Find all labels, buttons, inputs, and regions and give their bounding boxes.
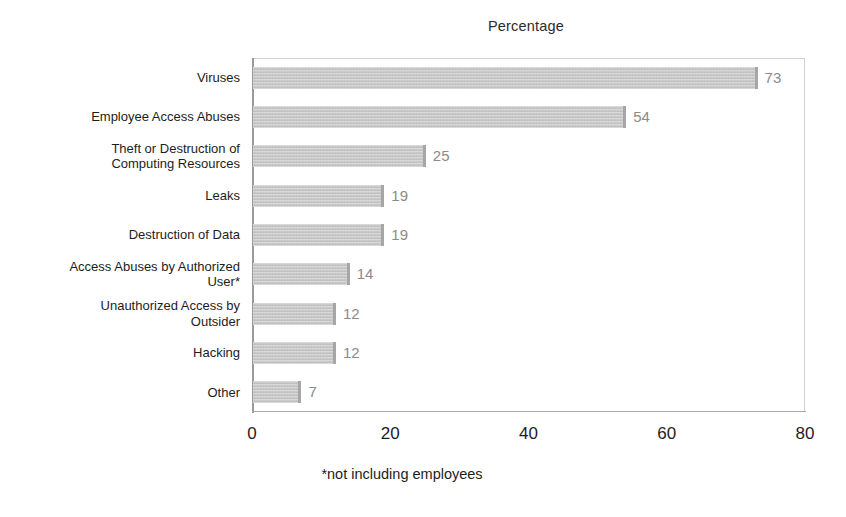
category-label: Viruses xyxy=(0,70,240,86)
bar-row: Employee Access Abuses54 xyxy=(0,97,846,136)
bar xyxy=(253,67,758,89)
bar-chart-figure: Percentage Viruses73Employee Access Abus… xyxy=(0,0,846,517)
chart-footnote: *not including employees xyxy=(252,466,552,482)
bar-row: Other7 xyxy=(0,373,846,412)
bar xyxy=(253,224,384,246)
bar-row: Hacking12 xyxy=(0,333,846,372)
category-label: Theft or Destruction of Computing Resour… xyxy=(0,141,240,172)
bar xyxy=(253,145,426,167)
bar-value-label: 19 xyxy=(391,187,408,204)
x-tick-label: 20 xyxy=(360,424,420,444)
bar xyxy=(253,106,626,128)
bar-row: Destruction of Data19 xyxy=(0,215,846,254)
category-label: Access Abuses by Authorized User* xyxy=(0,259,240,290)
bar-row: Access Abuses by Authorized User*14 xyxy=(0,255,846,294)
bar-value-label: 7 xyxy=(308,383,316,400)
bar-value-label: 12 xyxy=(343,344,360,361)
x-tick-label: 40 xyxy=(499,424,559,444)
bar xyxy=(253,303,336,325)
bar-value-label: 25 xyxy=(433,147,450,164)
bar-value-label: 12 xyxy=(343,305,360,322)
bar-row: Leaks19 xyxy=(0,176,846,215)
chart-title-text: Percentage xyxy=(488,18,564,34)
bar-value-label: 14 xyxy=(357,265,374,282)
bar-row: Unauthorized Access by Outsider12 xyxy=(0,294,846,333)
bar xyxy=(253,263,350,285)
bar xyxy=(253,342,336,364)
x-tick-label: 80 xyxy=(775,424,835,444)
category-label: Leaks xyxy=(0,188,240,204)
bar-row: Viruses73 xyxy=(0,58,846,97)
bar xyxy=(253,381,301,403)
chart-title: Percentage xyxy=(0,18,846,34)
bar-row: Theft or Destruction of Computing Resour… xyxy=(0,137,846,176)
category-label: Unauthorized Access by Outsider xyxy=(0,298,240,329)
category-label: Employee Access Abuses xyxy=(0,109,240,125)
bar-value-label: 54 xyxy=(633,108,650,125)
category-label: Other xyxy=(0,385,240,401)
bar-value-label: 73 xyxy=(765,69,782,86)
x-tick-label: 0 xyxy=(222,424,282,444)
category-label: Destruction of Data xyxy=(0,227,240,243)
x-tick-label: 60 xyxy=(637,424,697,444)
category-label: Hacking xyxy=(0,345,240,361)
bar-value-label: 19 xyxy=(391,226,408,243)
bar xyxy=(253,185,384,207)
